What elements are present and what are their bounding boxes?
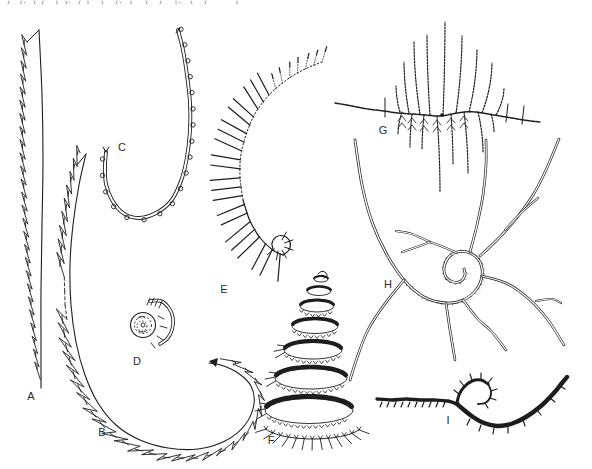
figure-h-drawing [350, 139, 564, 380]
figure-i-drawing [377, 373, 567, 434]
figure-label-h: H [384, 279, 392, 290]
figure-label-i: I [446, 415, 449, 426]
figure-label-c: C [118, 142, 126, 153]
figure-a-drawing [20, 30, 43, 388]
figure-label-d: D [133, 356, 141, 367]
figure-f-drawing [255, 271, 369, 450]
figure-label-g: G [379, 125, 388, 136]
cropped-text-fragments-top [8, 1, 237, 4]
plate-svg [0, 0, 592, 469]
figure-d-drawing [131, 298, 174, 348]
figure-c-drawing [100, 27, 195, 222]
figure-label-a: A [27, 391, 34, 402]
figure-e-drawing [210, 47, 327, 281]
figure-label-b: B [98, 427, 105, 438]
figure-g-drawing [335, 22, 540, 192]
figure-label-f: F [268, 435, 275, 446]
plate-page: A B C D E F G H I [0, 0, 592, 469]
figure-b-drawing [56, 145, 264, 461]
figure-label-e: E [220, 284, 227, 295]
